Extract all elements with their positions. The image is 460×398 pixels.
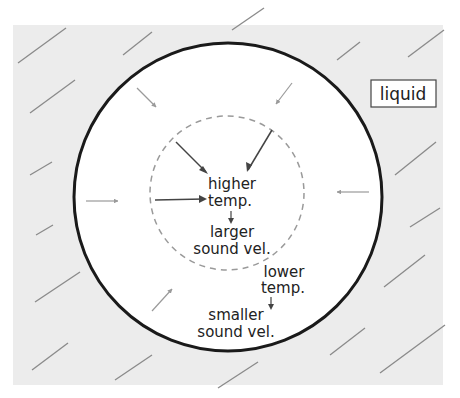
bubble-temperature-diagram: higher temp. larger sound vel. lower tem… bbox=[0, 0, 460, 398]
liquid-label: liquid bbox=[380, 84, 427, 104]
center-label-larger: larger bbox=[210, 223, 255, 241]
center-label-higher: higher bbox=[208, 175, 257, 193]
center-label-sound-vel: sound vel. bbox=[193, 240, 270, 258]
edge-label-smaller: smaller bbox=[208, 306, 264, 324]
center-label-temp: temp. bbox=[208, 192, 252, 210]
edge-label-temp: temp. bbox=[261, 279, 305, 297]
edge-label-sound-vel: sound vel. bbox=[197, 323, 274, 341]
